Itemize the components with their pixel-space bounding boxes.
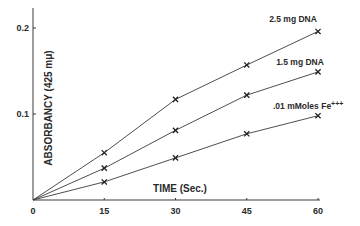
axis-ticks bbox=[33, 28, 318, 200]
series-label-2-5mg-dna: 2.5 mg DNA bbox=[269, 14, 317, 24]
x-tick-label: 60 bbox=[313, 206, 323, 216]
absorbancy-chart: 0153045600.10.2 ABSORBANCY (425 mμ) TIME… bbox=[0, 0, 360, 226]
x-tick-label: 45 bbox=[242, 206, 252, 216]
x-marker-icon bbox=[315, 69, 320, 74]
x-tick-label: 15 bbox=[99, 206, 109, 216]
y-tick-label: 0.1 bbox=[16, 109, 29, 119]
x-marker-icon bbox=[244, 92, 249, 97]
x-tick-label: 0 bbox=[30, 206, 35, 216]
x-marker-icon bbox=[102, 166, 107, 171]
series-label-fe-sup: +++ bbox=[331, 100, 343, 107]
x-marker-icon bbox=[173, 155, 178, 160]
x-marker-icon bbox=[173, 97, 178, 102]
x-marker-icon bbox=[102, 150, 107, 155]
x-tick-label: 30 bbox=[170, 206, 180, 216]
x-marker-icon bbox=[315, 29, 320, 34]
series-line-1 bbox=[33, 72, 318, 200]
series-label-fe-text: .01 mMoles Fe bbox=[273, 101, 331, 111]
series-label-1-5mg-dna: 1.5 mg DNA bbox=[276, 57, 324, 67]
x-axis-label: TIME (Sec.) bbox=[153, 183, 207, 194]
series-label-fe: .01 mMoles Fe+++ bbox=[273, 100, 343, 111]
y-axis-label: ABSORBANCY (425 mμ) bbox=[43, 50, 54, 165]
y-tick-label: 0.2 bbox=[16, 23, 29, 33]
x-marker-icon bbox=[173, 128, 178, 133]
x-marker-icon bbox=[244, 62, 249, 67]
